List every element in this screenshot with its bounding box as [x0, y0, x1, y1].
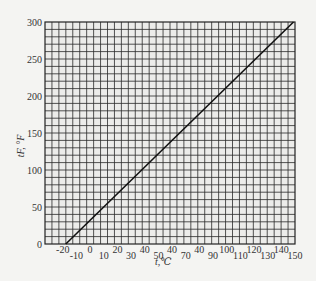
y-tick-label: 0 [37, 239, 42, 250]
y-tick-label: 300 [27, 17, 42, 28]
y-tick-label: 100 [27, 165, 42, 176]
y-tick-label: 200 [27, 91, 42, 102]
x-tick-label: 40 [140, 244, 150, 255]
x-tick-label: 30 [126, 250, 136, 261]
x-tick-label: -10 [70, 250, 83, 261]
x-tick-label: 10 [99, 250, 109, 261]
x-tick-label: 40 [167, 244, 177, 255]
y-tick-label: 150 [27, 128, 42, 139]
conversion-chart: 050100150200250300 -20020404040100120140… [0, 0, 316, 281]
x-tick-label: 100 [219, 244, 234, 255]
x-tick-label: -20 [56, 244, 69, 255]
x-axis-label: t,℃ [155, 256, 171, 267]
x-tick-label: 20 [112, 244, 122, 255]
x-tick-label: 70 [181, 250, 191, 261]
y-tick-label: 50 [32, 202, 42, 213]
y-tick-label: 250 [27, 54, 42, 65]
x-tick-label: 110 [233, 250, 248, 261]
y-axis-ticks: 050100150200250300 [27, 17, 42, 250]
x-tick-label: 40 [194, 244, 204, 255]
x-tick-label: 130 [260, 250, 275, 261]
x-axis-ticks: -20020404040100120140-101030507090110130… [56, 244, 302, 261]
x-tick-label: 0 [88, 244, 93, 255]
y-axis-label: tF, °F [15, 134, 26, 158]
x-tick-label: 150 [288, 250, 303, 261]
x-tick-label: 90 [208, 250, 218, 261]
